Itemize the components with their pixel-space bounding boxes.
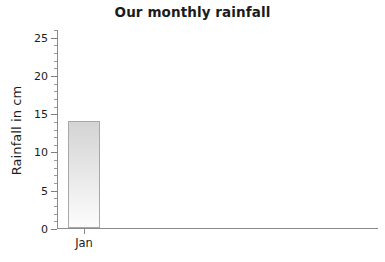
y-tick-mark-minor — [54, 168, 58, 169]
y-tick-mark-minor — [54, 198, 58, 199]
chart-title: Our monthly rainfall — [0, 4, 385, 21]
plot-area: 0510152025 Jan — [57, 30, 378, 229]
y-tick-mark-minor — [54, 183, 58, 184]
y-tick-mark-minor — [54, 221, 58, 222]
y-tick-mark-minor — [54, 206, 58, 207]
y-tick-mark-minor — [54, 107, 58, 108]
y-tick-mark-minor — [54, 130, 58, 131]
y-tick-mark-minor — [54, 122, 58, 123]
x-axis-line — [57, 228, 378, 229]
x-tick-label: Jan — [75, 238, 93, 250]
y-tick-mark-major — [51, 76, 57, 77]
y-tick-mark-minor — [54, 68, 58, 69]
y-tick-mark-major — [51, 152, 57, 153]
y-tick-mark-minor — [54, 91, 58, 92]
y-tick-mark-minor — [54, 45, 58, 46]
y-tick-mark-minor — [54, 160, 58, 161]
y-axis-title: Rainfall in cm — [6, 30, 28, 230]
y-tick-label: 15 — [34, 109, 48, 120]
bar — [68, 121, 100, 228]
y-tick-label: 20 — [34, 70, 48, 81]
y-tick-mark-minor — [54, 61, 58, 62]
y-tick-label: 5 — [41, 185, 48, 196]
y-tick-mark-major — [51, 114, 57, 115]
y-tick-label: 10 — [34, 147, 48, 158]
y-tick-mark-minor — [54, 84, 58, 85]
y-tick-mark-minor — [54, 137, 58, 138]
y-tick-mark-minor — [54, 145, 58, 146]
y-tick-label: 25 — [34, 32, 48, 43]
y-axis-line — [57, 30, 58, 229]
y-tick-mark-minor — [54, 214, 58, 215]
y-tick-mark-minor — [54, 30, 58, 31]
y-tick-mark-major — [51, 229, 57, 230]
y-tick-mark-minor — [54, 53, 58, 54]
y-axis-title-text: Rainfall in cm — [10, 85, 25, 175]
x-tick-mark — [84, 229, 85, 234]
y-tick-mark-minor — [54, 175, 58, 176]
y-tick-label: 0 — [41, 224, 48, 235]
y-tick-mark-minor — [54, 99, 58, 100]
bar-chart: Our monthly rainfall Rainfall in cm 0510… — [0, 0, 385, 262]
y-tick-mark-major — [51, 38, 57, 39]
y-tick-mark-major — [51, 191, 57, 192]
